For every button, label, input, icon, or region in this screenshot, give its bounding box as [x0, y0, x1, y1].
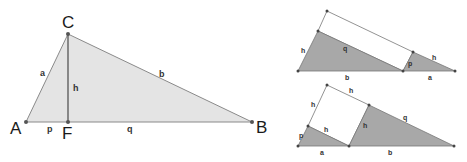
triangle-abc: [26, 34, 252, 122]
point: [297, 70, 300, 73]
label-c-vertex: C: [62, 13, 74, 32]
label-h-left: h: [311, 101, 315, 108]
label-q: q: [403, 114, 407, 122]
point: [453, 145, 456, 148]
point: [402, 70, 405, 73]
label-segment-p: p: [47, 124, 53, 134]
point: [317, 30, 320, 33]
point: [307, 125, 310, 128]
label-p: p: [408, 60, 412, 68]
label-a: a: [428, 74, 432, 81]
label-h-top: h: [349, 87, 353, 94]
label-p: p: [299, 132, 303, 140]
point-c: [66, 32, 70, 36]
label-f-vertex: F: [62, 124, 72, 143]
label-a-vertex: A: [10, 119, 22, 138]
label-h-right: h: [432, 54, 436, 61]
label-h-left: h: [301, 47, 305, 54]
label-segment-q: q: [127, 124, 133, 134]
point-b: [250, 120, 254, 124]
point: [412, 51, 415, 54]
point-a: [24, 120, 28, 124]
label-h-square-right: h: [363, 122, 367, 129]
point: [454, 70, 457, 73]
label-b-vertex: B: [256, 118, 267, 137]
label-h-inner: h: [324, 126, 328, 133]
point: [368, 104, 371, 107]
diagram-canvas: A C F B a b h p q h q b p h a: [0, 0, 467, 162]
main-triangle: A C F B a b h p q: [10, 13, 267, 143]
label-side-b: b: [159, 69, 165, 79]
label-b: b: [388, 149, 392, 156]
point: [326, 10, 329, 13]
label-q: q: [343, 45, 347, 53]
label-a: a: [320, 149, 324, 156]
bottom-right-figure: h h p h h q a b: [297, 84, 456, 157]
label-altitude-h: h: [73, 83, 79, 93]
point: [297, 145, 300, 148]
point: [348, 145, 351, 148]
label-b: b: [345, 74, 349, 81]
top-right-figure: h q b p h a: [297, 10, 457, 82]
point: [326, 84, 329, 87]
label-side-a: a: [40, 68, 46, 78]
